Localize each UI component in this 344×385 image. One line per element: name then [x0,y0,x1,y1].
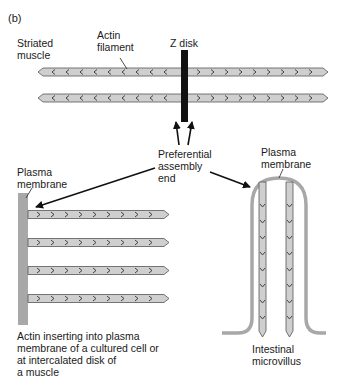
membrane-filaments [28,211,169,303]
arrow-to-zdisk-right [188,122,192,145]
plasma-membrane-bar [18,193,28,325]
arrow-to-microvillus [210,172,250,187]
actin-diagram [0,0,344,385]
z-disk-bar [181,50,188,122]
membrane-filament-chevrons [37,212,152,301]
arrow-to-zdisk-left [176,122,179,145]
microvillus-membrane [222,178,326,333]
actin-filament-leader [120,58,127,69]
arrow-to-membrane-filaments [36,168,155,207]
